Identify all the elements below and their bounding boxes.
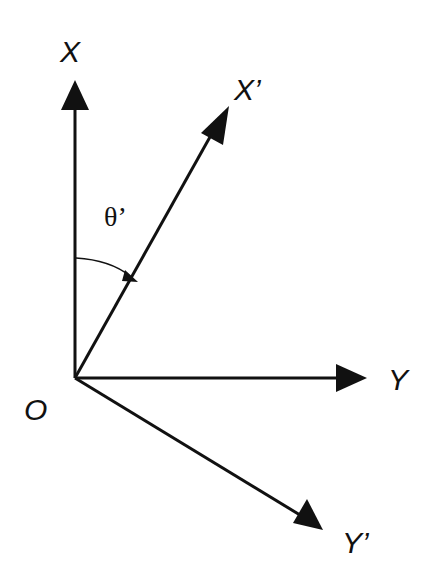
x-prime-axis-label: X’ (233, 73, 262, 106)
angle-label: θ’ (104, 201, 127, 232)
y-prime-axis-label: Y’ (342, 526, 370, 559)
x-prime-axis-line (75, 128, 215, 378)
y-arrowhead-icon (336, 364, 367, 392)
x-arrowhead-icon (61, 80, 89, 110)
rotation-diagram: X X’ Y Y’ O θ’ (0, 0, 433, 573)
y-axis-label: Y (388, 363, 410, 396)
y-prime-axis-line (75, 378, 300, 515)
x-prime-arrowhead-icon (201, 106, 229, 145)
origin-label: O (24, 393, 47, 426)
angle-arc (76, 258, 130, 276)
x-axis-label: X (59, 35, 81, 68)
